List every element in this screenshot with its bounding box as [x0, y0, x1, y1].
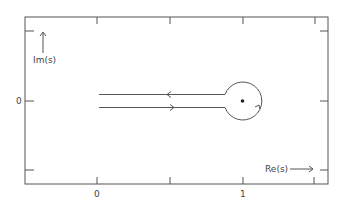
x-tick-label-1: 1 [240, 189, 246, 199]
re-axis-arrow-icon [290, 166, 313, 172]
y-tick-label-0: 0 [16, 96, 22, 106]
keyhole-contour [99, 82, 262, 120]
plot-frame [25, 17, 328, 184]
im-axis-arrow-icon [40, 32, 46, 53]
y-axis-label: Im(s) [33, 55, 56, 65]
bottom-ticks [97, 177, 314, 184]
contour-diagram [0, 0, 347, 208]
top-ticks [97, 17, 315, 24]
x-tick-label-0: 0 [94, 189, 100, 199]
left-ticks [25, 31, 34, 170]
right-ticks [320, 31, 328, 170]
pole-point [241, 99, 245, 103]
x-axis-label: Re(s) [265, 164, 288, 174]
circle-arrow-icon [255, 105, 260, 109]
